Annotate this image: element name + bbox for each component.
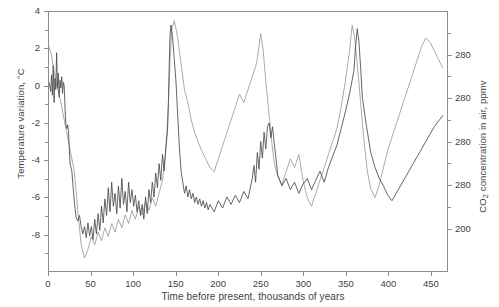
y-axis-left-tick-label: -2 <box>14 117 40 128</box>
series-co2-line <box>49 21 443 258</box>
x-axis-tick-label: 0 <box>33 278 63 289</box>
y-axis-right-tick <box>448 98 452 99</box>
y-axis-left-tick <box>44 123 48 124</box>
y-axis-right-tick-label: 280 <box>455 136 485 147</box>
y-axis-right-tick-label: 280 <box>455 92 485 103</box>
y-axis-left-minor-tick <box>45 142 48 143</box>
y-axis-right-minor-tick <box>448 33 451 34</box>
x-axis-tick-label: 100 <box>118 278 148 289</box>
x-axis-tick <box>91 272 92 276</box>
y-axis-right-tick <box>448 142 452 143</box>
y-axis-left-tick-label: -6 <box>14 191 40 202</box>
y-axis-right-minor-tick <box>448 163 451 164</box>
y-axis-right-title-subscript: 2 <box>481 194 490 198</box>
y-axis-right-tick <box>448 185 452 186</box>
x-axis-tick <box>431 272 432 276</box>
x-axis-tick <box>48 272 49 276</box>
x-axis-tick <box>261 272 262 276</box>
x-axis-tick <box>303 272 304 276</box>
y-axis-left-tick-label: 4 <box>14 5 40 16</box>
chart-figure: Temperature variation, °C CO2 concentrat… <box>0 0 499 307</box>
x-axis-tick-label: 150 <box>161 278 191 289</box>
y-axis-left-minor-tick <box>45 179 48 180</box>
x-axis-tick-label: 450 <box>416 278 446 289</box>
y-axis-right-title: CO2 concentration in air, ppmv <box>477 57 490 237</box>
x-axis-tick <box>218 272 219 276</box>
y-axis-left-minor-tick <box>45 104 48 105</box>
y-axis-right-tick-label: 280 <box>455 179 485 190</box>
x-axis-tick-label: 350 <box>331 278 361 289</box>
x-axis-title: Time before present, thousands of years <box>48 291 458 302</box>
y-axis-left-tick-label: 2 <box>14 42 40 53</box>
y-axis-left-minor-tick <box>45 30 48 31</box>
y-axis-left-minor-tick <box>45 253 48 254</box>
y-axis-right-minor-tick <box>448 76 451 77</box>
x-axis-tick <box>176 272 177 276</box>
y-axis-right-tick <box>448 229 452 230</box>
y-axis-right-tick-label: 280 <box>455 49 485 60</box>
series-temperature-line <box>49 25 443 240</box>
y-axis-left-tick <box>44 160 48 161</box>
y-axis-left-minor-tick <box>45 216 48 217</box>
y-axis-left-tick <box>44 48 48 49</box>
x-axis-tick-label: 400 <box>373 278 403 289</box>
y-axis-left-tick <box>44 11 48 12</box>
y-axis-left-tick <box>44 197 48 198</box>
x-axis-tick-label: 200 <box>203 278 233 289</box>
y-axis-left-tick-label: 0 <box>14 80 40 91</box>
x-axis-tick <box>346 272 347 276</box>
x-axis-tick <box>133 272 134 276</box>
x-axis-tick-label: 50 <box>76 278 106 289</box>
y-axis-right-minor-tick <box>448 120 451 121</box>
plot-area <box>48 11 448 272</box>
y-axis-right-tick-label: 200 <box>455 223 485 234</box>
y-axis-left-tick <box>44 235 48 236</box>
plot-svg <box>49 12 447 271</box>
y-axis-right-tick <box>448 55 452 56</box>
y-axis-left-tick-label: -4 <box>14 154 40 165</box>
y-axis-left-minor-tick <box>45 67 48 68</box>
y-axis-left-tick-label: -8 <box>14 229 40 240</box>
x-axis-tick-label: 300 <box>288 278 318 289</box>
x-axis-tick-label: 250 <box>246 278 276 289</box>
x-axis-tick <box>388 272 389 276</box>
y-axis-right-minor-tick <box>448 207 451 208</box>
y-axis-left-tick <box>44 86 48 87</box>
y-axis-right-title-prefix: CO <box>477 198 488 212</box>
